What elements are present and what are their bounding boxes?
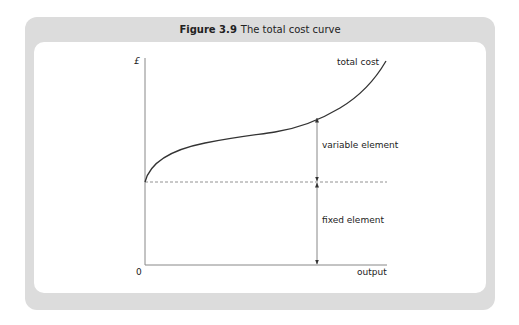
y-axis-label: £: [134, 57, 140, 66]
total-cost-chart: [0, 0, 519, 325]
variable-element-label: variable element: [322, 141, 398, 150]
origin-label: 0: [136, 268, 142, 277]
x-axis-label: output: [357, 268, 387, 277]
total-cost-curve: [145, 61, 386, 182]
fixed-element-label: fixed element: [322, 216, 384, 225]
curve-label: total cost: [337, 58, 379, 67]
